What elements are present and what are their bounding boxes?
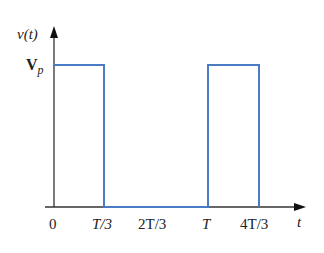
tick-0: 0 xyxy=(49,216,57,233)
tick-4t-third: 4T/3 xyxy=(240,216,268,233)
vp-label: Vp xyxy=(26,56,44,78)
tick-t-third: T/3 xyxy=(92,216,112,233)
x-axis-arrow-icon xyxy=(294,203,306,211)
y-axis-arrow-icon xyxy=(50,26,58,38)
tick-t: T xyxy=(202,216,210,233)
tick-2t-third: 2T/3 xyxy=(138,216,166,233)
x-axis-label: t xyxy=(297,214,301,231)
y-axis-label: v(t) xyxy=(17,26,38,43)
vp-subscript: p xyxy=(38,63,44,77)
square-pulse-signal xyxy=(54,65,259,207)
vp-main: V xyxy=(26,56,38,73)
